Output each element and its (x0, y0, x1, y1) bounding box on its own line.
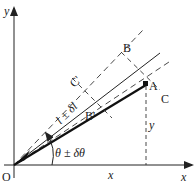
point-b-prime-label: B' (85, 109, 95, 123)
origin-label: O (2, 170, 11, 183)
length-label: l ± δl (53, 99, 81, 127)
point-a-marker (143, 81, 148, 86)
y-axis-label: y (3, 4, 10, 18)
x-axis-label: x (180, 170, 187, 183)
y-projection-label: y (148, 118, 155, 132)
diagram-canvas: y O x A B C C' B' l ± δl θ ± δθ x y (0, 0, 196, 183)
angle-label: θ ± δθ (55, 146, 85, 160)
x-projection-label: x (107, 168, 114, 182)
point-b-label: B (123, 41, 131, 55)
point-a-label: A (149, 79, 158, 93)
point-c-label: C (161, 92, 169, 106)
